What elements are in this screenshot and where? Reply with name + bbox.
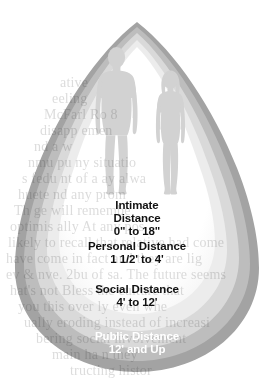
proxemics-diagram: ative eeling McFarl Ro 8 disapp emen nd …	[0, 0, 274, 391]
proxemics-zones-graphic	[0, 0, 274, 391]
